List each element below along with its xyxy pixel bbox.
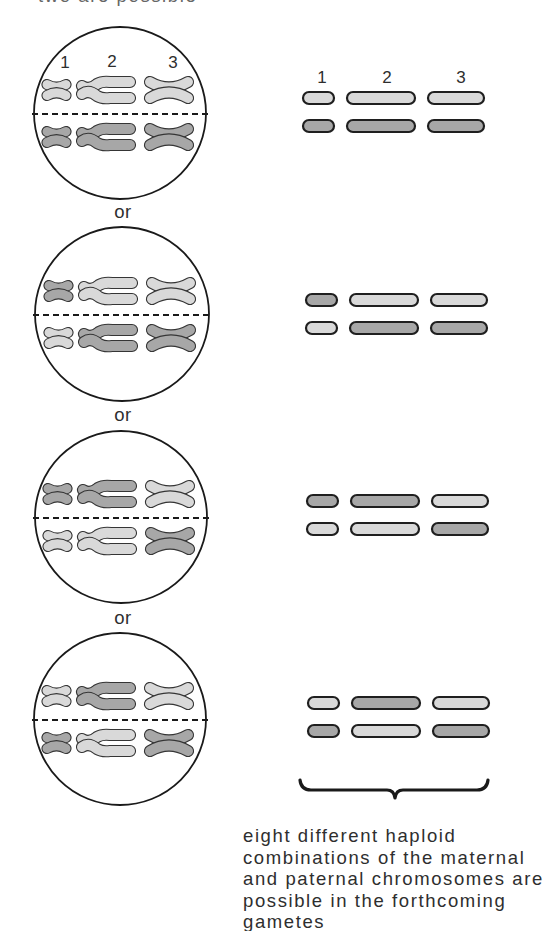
metaphase-cell-4: [32, 633, 209, 805]
caption-line: eight different haploid: [243, 825, 456, 846]
caption-line: gametes: [243, 911, 325, 931]
chromosome-2-bottom-dark: [84, 330, 132, 347]
gamete-chromosome-1-row2-light: [306, 322, 337, 334]
chromosome-1-bottom-dark: [47, 738, 66, 749]
gamete-chromosome-1-row1-light: [308, 697, 339, 709]
chromosome-3-bottom-dark: [152, 330, 190, 346]
chromatid-dark: [47, 140, 66, 143]
chromosome-3-top-light: [151, 486, 189, 502]
chromatid-light: [48, 536, 67, 539]
chromatid-light: [47, 85, 66, 88]
gamete-chromosome-1-row2-dark: [303, 120, 334, 132]
chromatid-dark: [49, 286, 68, 289]
chromosome-2-top-dark: [83, 486, 131, 503]
gamete-chromosome-3-row1-light: [432, 495, 488, 507]
gamete-set-3: [307, 495, 488, 535]
gamete-chromosome-2-row2-dark: [347, 120, 415, 132]
gamete-chromosome-1-row2-dark: [308, 725, 339, 737]
chromatid-light: [49, 341, 68, 344]
gamete-combinations: [303, 92, 489, 737]
gamete-label-1: 1: [317, 68, 326, 87]
chromatid-dark: [48, 497, 67, 500]
gamete-chromosome-3-row2-dark: [432, 523, 488, 535]
gamete-chromosome-2-row2-light: [352, 725, 420, 737]
gamete-chromosome-1-row1-dark: [306, 294, 337, 306]
chromatid-dark: [47, 132, 66, 135]
gamete-set-4: [308, 697, 489, 737]
chromosome-3-top-light: [152, 283, 190, 299]
cell-label-3: 3: [168, 53, 177, 72]
chromosome-3-top-light: [150, 82, 188, 98]
gamete-chromosome-2-row1-light: [350, 294, 418, 306]
gamete-chromosome-3-row1-light: [428, 92, 484, 104]
or-label: or: [114, 201, 131, 222]
cell-membrane-circle: [34, 633, 206, 805]
or-label: or: [114, 404, 131, 425]
chromosome-3-bottom-dark: [150, 735, 188, 751]
cell-label-2: 2: [107, 52, 116, 71]
gamete-chromosome-1-row1-dark: [307, 495, 338, 507]
chromosome-1-top-light: [47, 85, 66, 96]
gamete-chromosome-2-row1-dark: [351, 495, 419, 507]
cell-membrane-circle: [35, 227, 209, 401]
chromatid-light: [150, 93, 188, 99]
curly-brace-icon: [300, 780, 488, 798]
gamete-set-2: [306, 294, 487, 334]
chromosome-1-bottom-light: [49, 333, 68, 344]
chromosome-2-top-dark: [82, 688, 130, 705]
chromosome-1-top-dark: [48, 489, 67, 500]
cell-membrane-circle: [34, 27, 206, 199]
gamete-chromosome-2-row1-light: [347, 92, 415, 104]
metaphase-cell-1: [32, 27, 209, 199]
gamete-set-1: [303, 92, 484, 132]
cell-number-labels: 1 2 3: [60, 52, 177, 72]
chromosome-1-bottom-light: [48, 536, 67, 547]
chromosome-2-bottom-light: [83, 533, 131, 550]
metaphase-cell-2: [33, 227, 212, 401]
gamete-chromosome-1-row1-light: [303, 92, 334, 104]
chromatid-dark: [49, 294, 68, 297]
gamete-chromosome-3-row2-dark: [431, 322, 487, 334]
caption: eight different haploid combinations of …: [243, 825, 544, 931]
chromatid-light: [47, 93, 66, 96]
gamete-chromosome-2-row1-dark: [352, 697, 420, 709]
meiosis-independent-assortment-diagram: two are possible 1 2 3 1 2 3 or or or ei…: [0, 0, 554, 931]
chromatid-dark: [151, 544, 189, 550]
chromosome-2-bottom-dark: [82, 129, 130, 146]
chromosome-3-top-light: [150, 688, 188, 704]
gamete-chromosome-2-row2-dark: [350, 322, 418, 334]
cell-label-1: 1: [60, 53, 69, 72]
chromatid-light: [48, 544, 67, 547]
gamete-number-labels: 1 2 3: [317, 68, 465, 87]
chromatid-light: [49, 333, 68, 336]
caption-line: possible in the forthcoming: [243, 890, 506, 911]
cell-membrane-circle: [35, 431, 207, 603]
gamete-label-3: 3: [456, 68, 465, 87]
gamete-label-2: 2: [382, 68, 391, 87]
chromosome-2-top-light: [82, 82, 130, 99]
gamete-chromosome-3-row2-dark: [433, 725, 489, 737]
gamete-chromosome-3-row1-light: [433, 697, 489, 709]
chromatid-light: [47, 691, 66, 694]
caption-line: and paternal chromosomes are: [243, 868, 544, 889]
gamete-chromosome-2-row2-light: [351, 523, 419, 535]
chromatid-dark: [150, 746, 188, 752]
chromatid-dark: [48, 489, 67, 492]
metaphase-cell-3: [33, 431, 210, 603]
chromatid-light: [47, 699, 66, 702]
chromatid-light: [152, 294, 190, 300]
chromatid-light: [150, 699, 188, 705]
header-partial-text: two are possible: [38, 0, 197, 6]
chromatid-dark: [47, 746, 66, 749]
chromosome-1-top-light: [47, 691, 66, 702]
gamete-chromosome-3-row2-dark: [428, 120, 484, 132]
or-label: or: [114, 607, 131, 628]
or-separators: or or or: [114, 201, 131, 628]
chromosome-3-bottom-dark: [150, 129, 188, 145]
chromatid-dark: [152, 341, 190, 347]
gamete-chromosome-1-row2-light: [307, 523, 338, 535]
chromosome-1-top-dark: [49, 286, 68, 297]
chromatid-dark: [150, 140, 188, 146]
chromosome-2-bottom-light: [82, 735, 130, 752]
chromosome-3-bottom-dark: [151, 533, 189, 549]
